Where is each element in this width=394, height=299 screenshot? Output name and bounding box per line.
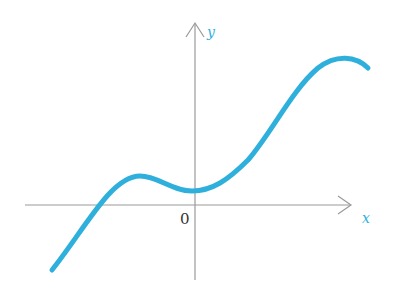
origin-label: 0 bbox=[180, 210, 190, 228]
y-axis bbox=[186, 23, 204, 280]
y-axis-label: y bbox=[206, 24, 216, 40]
function-curve bbox=[52, 58, 368, 270]
x-axis-label: x bbox=[362, 210, 370, 226]
function-graph: y x 0 bbox=[0, 0, 394, 299]
